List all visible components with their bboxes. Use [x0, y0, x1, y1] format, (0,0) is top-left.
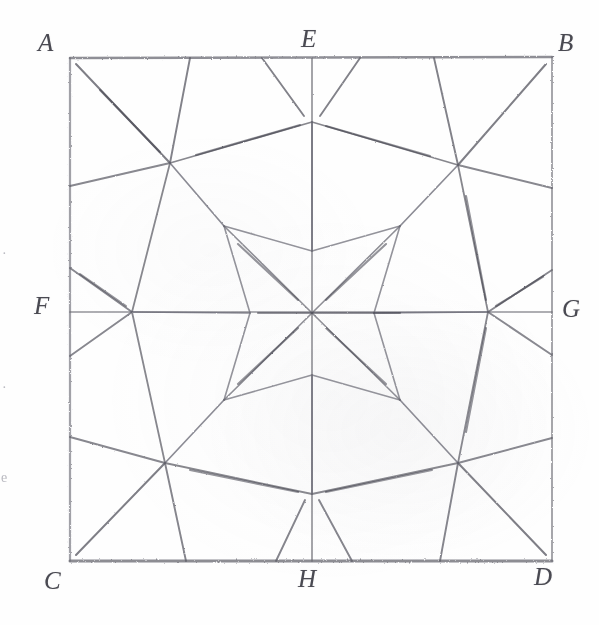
accent-A-hubNW — [100, 90, 160, 152]
accent-oct-NW-in — [238, 244, 298, 300]
spoke-hubSW-octSW — [165, 400, 224, 463]
diagonal-C-hubSW — [76, 463, 165, 555]
plate-page: A E B F G C H D · · e — [0, 0, 599, 625]
right-edge-rays — [458, 165, 552, 463]
vertex-label-G: G — [562, 296, 581, 321]
ray-bottomedge-to-hubS-left — [276, 500, 305, 561]
accent-oct-SE-in — [326, 328, 386, 384]
ray-rightedge-to-hubSE — [458, 438, 552, 463]
margin-mark-3: e — [1, 470, 7, 486]
link-hubSW-hubW — [132, 312, 165, 463]
geometric-diagram — [0, 0, 599, 625]
accent-hubN-hubNE — [326, 126, 430, 156]
link-hubE-hubSE — [458, 312, 488, 463]
ray-leftedge-to-hubSW — [70, 437, 165, 463]
spoke-hubW-octW — [132, 312, 250, 313]
ray-topedge-to-hubN-right — [320, 58, 360, 116]
margin-mark-1: · — [2, 246, 7, 262]
ray-bottomedge-to-hubS-right — [319, 500, 352, 561]
ray-topedge-left-to-hubNW — [170, 58, 190, 163]
ray-leftedge-lower-to-hubW — [70, 312, 132, 356]
accent-oct-SW-in — [238, 328, 298, 384]
vertex-label-C: C — [44, 568, 61, 593]
vertex-label-D: D — [534, 564, 553, 589]
ray-topedge-right-to-hubNE — [434, 58, 458, 165]
margin-mark-2: · — [2, 380, 7, 396]
accent-hubE-right — [496, 276, 544, 306]
accent-oct-NE-in — [326, 244, 386, 300]
accent-hubNW-hubN — [196, 125, 300, 155]
accent-hubNE-hubE — [466, 196, 486, 300]
vertex-label-E: E — [301, 26, 317, 51]
ray-bottomedge-left-to-hubSW — [165, 463, 186, 561]
vertex-label-A: A — [38, 30, 54, 55]
diagonal-B-hubNE — [458, 64, 546, 165]
hub-inner-spokes — [132, 122, 488, 494]
ray-topedge-to-hubN-left — [262, 58, 304, 116]
accent-hubW-left — [80, 274, 126, 306]
ray-rightedge-lower-to-hubE — [488, 312, 552, 355]
spoke-hubSE-octSE — [400, 400, 458, 463]
vertex-label-B: B — [558, 30, 574, 55]
spoke-hubNE-octNE — [400, 165, 458, 226]
accent-hubSW-hubS — [190, 470, 298, 492]
vertex-label-H: H — [298, 566, 317, 591]
ray-rightedge-to-hubNE — [458, 165, 552, 188]
ray-leftedge-to-hubNW — [70, 163, 170, 186]
accent-hubSE-hubE — [466, 328, 486, 432]
link-hubW-hubNW — [132, 163, 170, 312]
ray-bottomedge-right-to-hubSE — [440, 463, 458, 561]
diagonal-D-hubSE — [458, 463, 546, 555]
accent-hubS-hubSE — [326, 470, 432, 492]
spoke-hubNW-octNW — [170, 163, 224, 226]
vertex-label-F: F — [34, 293, 50, 318]
frame-edge-top — [70, 57, 552, 58]
